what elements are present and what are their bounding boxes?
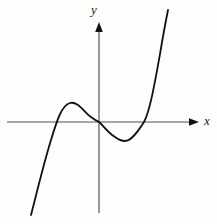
y-axis-label: y [91,3,97,16]
y-axis-arrow-icon [95,22,103,32]
plot-canvas [0,0,217,224]
x-axis-arrow-icon [189,118,199,126]
x-axis-label: x [204,114,210,127]
cubic-function-figure: y x [0,0,217,224]
